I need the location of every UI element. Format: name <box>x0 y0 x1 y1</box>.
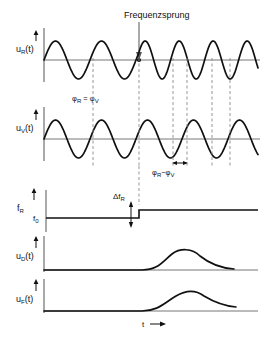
panel-f-r: fR f0 ΔfR <box>17 188 258 232</box>
f-r-axis-arrow <box>32 188 37 200</box>
u-r-label: uR(t) <box>16 44 34 55</box>
phase-diff-arrow <box>172 161 188 165</box>
frequency-jump-diagram: Frequenzsprung uR(t) φR = φV uV(t) <box>0 0 266 339</box>
u-v-axis-arrow <box>34 109 39 120</box>
delta-f-r-label: ΔfR <box>113 192 126 202</box>
panel-u-f: uF(t) <box>16 279 258 313</box>
u-r-axis-arrow <box>34 30 39 41</box>
u-f-axis-arrow <box>34 279 39 291</box>
t-axis-label: t <box>142 320 145 329</box>
f-r-label: fR <box>17 203 25 214</box>
u-f-label: uF(t) <box>16 294 33 305</box>
frequenzsprung-label: Frequenzsprung <box>124 10 190 20</box>
phase-diff-label: φR−φV <box>152 168 175 178</box>
u-d-label: uD(t) <box>16 251 34 262</box>
panel-u-r: uR(t) <box>16 28 260 82</box>
phase-equal-label: φR = φV <box>72 94 99 104</box>
delta-f-r-arrow <box>129 201 133 228</box>
u-v-label: uV(t) <box>16 123 34 134</box>
t-axis-arrow <box>150 322 166 327</box>
panel-u-v: uV(t) <box>16 107 260 161</box>
u-f-pulse <box>44 292 236 312</box>
dashed-markers <box>93 58 230 205</box>
u-d-axis-arrow <box>34 236 39 248</box>
u-d-pulse <box>44 250 234 270</box>
panel-u-d: uD(t) <box>16 236 258 272</box>
f-zero-label: f0 <box>33 214 39 224</box>
f-r-step-curve <box>46 210 258 218</box>
